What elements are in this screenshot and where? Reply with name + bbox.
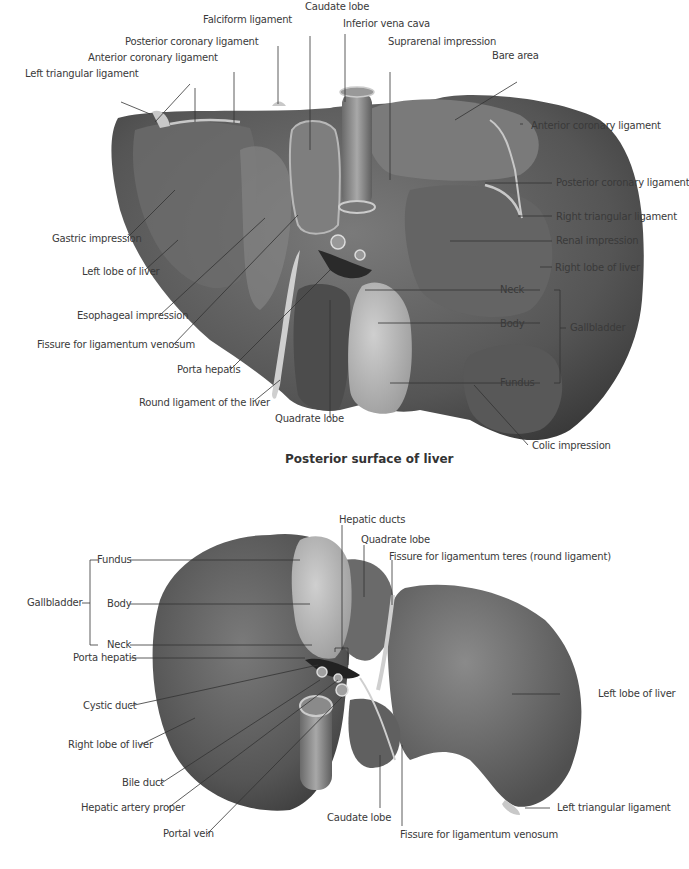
inferior-liver-figure [153, 534, 582, 815]
inferior-vessel-2 [334, 674, 342, 682]
caption-posterior-surface: Posterior surface of liver [285, 452, 454, 466]
label-porta-hepatis-top: Porta hepatis [177, 364, 240, 376]
inferior-vessel-3 [336, 684, 348, 696]
label-hepatic-ducts: Hepatic ducts [339, 514, 405, 526]
label-portal-vein: Portal vein [163, 828, 214, 840]
inferior-left-lobe-shape [388, 585, 582, 807]
label-renal-impression: Renal impression [556, 235, 638, 247]
label-left-triangular-ligament-top: Left triangular ligament [25, 68, 139, 80]
label-left-triangular-ligament-bottom: Left triangular ligament [557, 802, 671, 814]
ivc-bottom-opening [339, 201, 375, 213]
label-fissure-ligamentum-venosum-bottom: Fissure for ligamentum venosum [400, 829, 558, 841]
label-bile-duct: Bile duct [122, 777, 164, 789]
label-gallbladder-top: Gallbladder [570, 322, 625, 334]
label-caudate-lobe-bottom: Caudate lobe [327, 812, 391, 824]
label-body-bottom: Body [107, 598, 131, 610]
label-anterior-coronary-ligament-right: Anterior coronary ligament [531, 120, 661, 132]
label-posterior-coronary-ligament-left: Posterior coronary ligament [125, 36, 258, 48]
label-quadrate-lobe-top: Quadrate lobe [275, 413, 344, 425]
inferior-ivc-opening [300, 696, 332, 716]
label-inferior-vena-cava: Inferior vena cava [343, 18, 430, 30]
label-falciform-ligament: Falciform ligament [203, 14, 292, 26]
label-porta-hepatis-bottom: Porta hepatis [73, 652, 136, 664]
label-colic-impression: Colic impression [532, 440, 611, 452]
quadrate-lobe-shape [294, 284, 351, 411]
label-fundus-bottom: Fundus [97, 554, 132, 566]
label-right-lobe-of-liver-bottom: Right lobe of liver [68, 739, 153, 751]
porta-vessel-2 [355, 250, 365, 260]
label-fissure-ligamentum-teres: Fissure for ligamentum teres (round liga… [389, 551, 611, 563]
label-suprarenal-impression: Suprarenal impression [388, 36, 496, 48]
falciform-ligament-shape [272, 102, 286, 107]
label-esophageal-impression: Esophageal impression [77, 310, 188, 322]
inferior-vessel-1 [317, 667, 327, 677]
label-gallbladder-bottom: Gallbladder [27, 597, 82, 609]
label-body-top: Body [500, 318, 524, 330]
caudate-lobe-shape [290, 121, 340, 234]
label-posterior-coronary-ligament-right: Posterior coronary ligament [556, 177, 689, 189]
label-cystic-duct: Cystic duct [83, 700, 136, 712]
gallbladder-shape [348, 282, 412, 413]
label-neck-top: Neck [500, 284, 524, 296]
label-caudate-lobe-top: Caudate lobe [305, 1, 369, 13]
label-right-lobe-of-liver-top: Right lobe of liver [555, 262, 640, 274]
label-anterior-coronary-ligament-left: Anterior coronary ligament [88, 52, 218, 64]
ivc-shape [342, 92, 372, 207]
label-gastric-impression: Gastric impression [52, 233, 142, 245]
label-hepatic-artery-proper: Hepatic artery proper [81, 802, 185, 814]
label-round-ligament: Round ligament of the liver [139, 397, 270, 409]
label-right-triangular-ligament: Right triangular ligament [556, 211, 677, 223]
label-left-lobe-of-liver-bottom: Left lobe of liver [598, 688, 676, 700]
label-bare-area: Bare area [492, 50, 539, 62]
label-left-lobe-of-liver-top: Left lobe of liver [82, 266, 160, 278]
label-fundus-top: Fundus [500, 377, 535, 389]
label-fissure-ligamentum-venosum-top: Fissure for ligamentum venosum [37, 339, 195, 351]
label-quadrate-lobe-bottom: Quadrate lobe [361, 534, 430, 546]
label-neck-bottom: Neck [107, 639, 131, 651]
porta-vessel-1 [331, 235, 345, 249]
